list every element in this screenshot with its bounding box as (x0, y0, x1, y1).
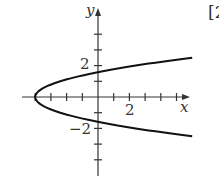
corner-mark: [2 (208, 4, 219, 21)
y-tick-label-2: 2 (80, 57, 90, 72)
x-axis-label: x (180, 100, 188, 115)
y-axis-arrow-icon (95, 8, 101, 16)
x-tick-label-2: 2 (125, 103, 135, 118)
y-axis-label: y (86, 3, 94, 18)
parabola-graph (0, 0, 219, 178)
y-tick-label-neg2: −2 (69, 122, 91, 137)
